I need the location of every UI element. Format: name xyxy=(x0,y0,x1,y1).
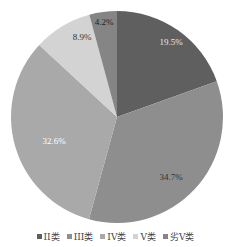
legend-swatch xyxy=(133,234,138,239)
legend-swatch xyxy=(37,234,42,239)
legend-swatch xyxy=(67,234,72,239)
legend-label: 劣V类 xyxy=(170,230,195,243)
legend-item-class-5: V类 xyxy=(133,230,156,243)
slice-value-label: 19.5% xyxy=(159,37,183,47)
legend-label: V类 xyxy=(140,230,156,243)
legend-swatch xyxy=(163,234,168,239)
slice-value-label: 32.6% xyxy=(42,136,66,146)
legend-label: III类 xyxy=(74,230,94,243)
slice-value-label: 34.7% xyxy=(159,172,183,182)
legend-item-class-2: II类 xyxy=(37,230,60,243)
legend-label: IV类 xyxy=(107,230,126,243)
legend: II类 III类 IV类 V类 劣V类 xyxy=(0,230,231,243)
legend-item-class-3: III类 xyxy=(67,230,94,243)
legend-label: II类 xyxy=(44,230,60,243)
slice-value-label: 4.2% xyxy=(95,17,114,27)
legend-item-class-4: IV类 xyxy=(100,230,126,243)
pie-chart: 19.5%34.7%32.6%8.9%4.2% xyxy=(0,0,231,247)
slice-value-label: 8.9% xyxy=(73,32,92,42)
pie-slices xyxy=(11,11,223,223)
legend-item-below-class-5: 劣V类 xyxy=(163,230,195,243)
legend-swatch xyxy=(100,234,105,239)
